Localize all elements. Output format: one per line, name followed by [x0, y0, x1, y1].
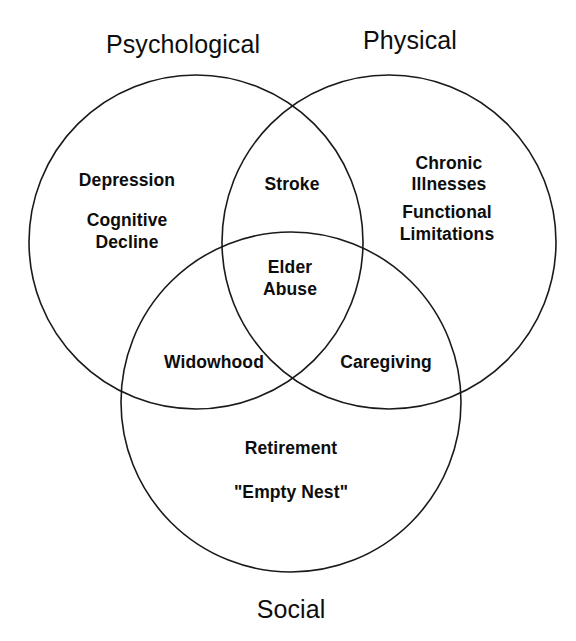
set-title-physical: Physical — [363, 25, 457, 56]
region-label-stroke: Stroke — [264, 174, 319, 195]
region-label-depression: Depression — [79, 170, 175, 191]
set-title-social: Social — [257, 594, 326, 625]
region-label-retirement: Retirement — [245, 438, 337, 459]
region-label-widowhood: Widowhood — [164, 352, 264, 373]
region-label-elder-abuse: Elder Abuse — [263, 257, 317, 300]
venn-circles — [0, 0, 576, 641]
region-label-empty-nest: "Empty Nest" — [234, 482, 348, 503]
region-label-cognitive-decline: Cognitive Decline — [87, 210, 168, 253]
region-label-functional-limitations: Functional Limitations — [400, 202, 494, 245]
venn-diagram: Psychological Physical Social Depression… — [0, 0, 576, 641]
region-label-caregiving: Caregiving — [340, 352, 431, 373]
region-label-chronic-illnesses: Chronic Illnesses — [386, 153, 513, 195]
set-title-psychological: Psychological — [106, 29, 260, 60]
